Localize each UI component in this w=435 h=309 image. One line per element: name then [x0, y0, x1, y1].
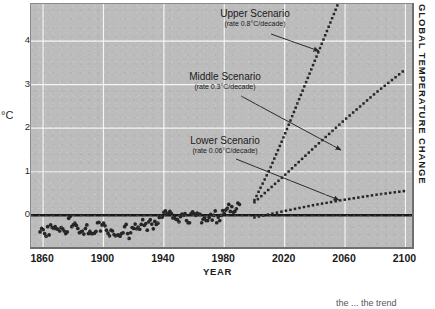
- y-tick-0: 0: [4, 208, 30, 219]
- annotation-middle-scenario: Middle Scenario (rate 0.3°C/decade): [160, 72, 290, 90]
- plot-frame-bottom: [30, 247, 414, 249]
- y-axis-ticks: 01234: [0, 0, 30, 249]
- x-tick-2020: 2020: [260, 252, 308, 264]
- climate-scenario-chart: 01234 °C 1860190019401980202020602100 YE…: [0, 0, 435, 309]
- caption-fragment: the ... the trend: [336, 298, 435, 309]
- y-tick-2: 2: [4, 121, 30, 132]
- annotation-lower-scenario: Lower Scenario (rate 0.06°C/decade): [160, 136, 290, 154]
- x-tick-2100: 2100: [380, 252, 428, 264]
- annotation-lower-rate: (rate 0.06°C/decade): [160, 147, 290, 155]
- annotation-middle-title: Middle Scenario: [160, 72, 290, 83]
- annotation-upper-rate: (rate 0.8°C/decade): [190, 20, 320, 28]
- plot-frame-right: [412, 3, 414, 248]
- x-axis-title: YEAR: [0, 266, 435, 277]
- annotation-upper-title: Upper Scenario: [190, 9, 320, 20]
- y-tick-3: 3: [4, 78, 30, 89]
- y-axis-title: GLOBAL TEMPERATURE CHANGE: [417, 4, 428, 242]
- plot-area: [30, 3, 412, 247]
- plot-canvas: [31, 4, 412, 247]
- y-tick-1: 1: [4, 165, 30, 176]
- series-observed-temperature: [38, 201, 241, 240]
- annotation-middle-rate: (rate 0.3°C/decade): [160, 83, 290, 91]
- annotation-upper-scenario: Upper Scenario (rate 0.8°C/decade): [190, 9, 320, 27]
- x-tick-1980: 1980: [199, 252, 247, 264]
- annotation-lower-title: Lower Scenario: [160, 136, 290, 147]
- x-tick-1860: 1860: [18, 252, 66, 264]
- y-axis-unit-label: °C: [1, 109, 14, 121]
- y-tick-4: 4: [4, 34, 30, 45]
- annotation-leader-arrows: [236, 34, 341, 200]
- x-tick-2060: 2060: [320, 252, 368, 264]
- x-tick-1940: 1940: [139, 252, 187, 264]
- x-tick-1900: 1900: [78, 252, 126, 264]
